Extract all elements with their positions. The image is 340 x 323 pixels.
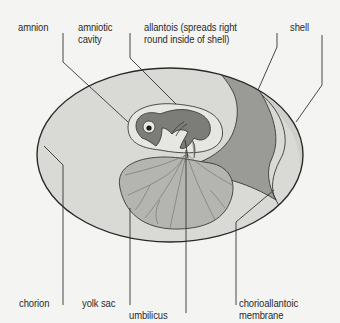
label-yolk-sac: yolk sac — [82, 297, 115, 309]
label-allantois-line2: round inside of shell) — [144, 33, 237, 45]
label-allantois: allantois (spreads right round inside of… — [144, 21, 237, 45]
label-chorioallantoic-membrane: chorioallantoic membrane — [239, 297, 298, 321]
label-amnion-text: amnion — [18, 21, 48, 33]
label-shell: shell — [290, 21, 309, 33]
label-chorioallantoic-membrane-line2: membrane — [239, 309, 298, 321]
label-amniotic-cavity: amniotic cavity — [78, 21, 112, 45]
label-amnion: amnion — [18, 21, 48, 33]
label-shell-text: shell — [290, 21, 309, 33]
label-amniotic-cavity-line2: cavity — [78, 33, 112, 45]
label-yolk-sac-text: yolk sac — [82, 297, 115, 309]
label-amniotic-cavity-line1: amniotic — [78, 21, 112, 33]
leader-allantois — [258, 33, 277, 90]
leader-shell — [296, 35, 322, 122]
label-allantois-line1: allantois (spreads right — [144, 21, 237, 33]
label-chorion-text: chorion — [19, 297, 49, 309]
label-chorioallantoic-membrane-line1: chorioallantoic — [239, 297, 298, 309]
label-umbilicus-text: umbilicus — [129, 309, 168, 321]
label-chorion: chorion — [19, 297, 49, 309]
egg-diagram — [0, 0, 340, 323]
egg — [37, 60, 340, 245]
label-umbilicus: umbilicus — [129, 309, 168, 321]
